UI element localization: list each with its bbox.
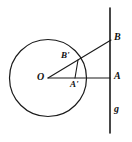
figure-canvas [0, 0, 132, 142]
label-point-a: A [114, 71, 121, 81]
label-point-a-prime: A' [70, 80, 79, 89]
geometry-figure: O B' A' B A g [0, 0, 132, 142]
ray-o-to-b [48, 40, 111, 78]
label-point-o: O [37, 72, 44, 82]
segment-bprime-to-aprime [75, 60, 78, 78]
label-line-g: g [114, 104, 119, 114]
label-point-b-prime: B' [61, 51, 70, 60]
label-point-b: B [114, 32, 121, 42]
